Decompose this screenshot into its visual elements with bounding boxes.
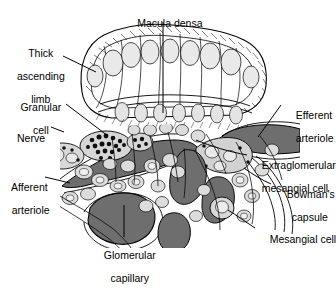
label-extraglomerular-mesangial-cell-line1: Extraglomerular bbox=[262, 159, 336, 171]
label-bowmans-capsule-line2: capsule bbox=[292, 211, 328, 223]
label-granular-cell-line1: Granular bbox=[20, 101, 61, 113]
label-glomerular-capillary: Glomerular capillary bbox=[76, 238, 172, 288]
label-macula-densa-text: Macula densa bbox=[137, 17, 202, 29]
label-efferent-arteriole-line2: arteriole bbox=[296, 132, 334, 144]
leader-afferent-arteriole bbox=[45, 177, 70, 183]
label-bowmans-capsule-line1: Bowman's bbox=[287, 188, 335, 200]
label-efferent-arteriole: Efferent arteriole bbox=[284, 98, 335, 156]
label-afferent-arteriole-line2: arteriole bbox=[12, 204, 50, 216]
mesangial-cell-shape bbox=[210, 197, 234, 219]
label-afferent-arteriole: Afferent arteriole bbox=[0, 170, 46, 228]
label-afferent-arteriole-line1: Afferent bbox=[11, 181, 48, 193]
label-macula-densa: Macula densa bbox=[118, 6, 210, 41]
label-nerve-text: Nerve bbox=[17, 132, 45, 144]
label-mesangial-cell: Mesangial cell bbox=[258, 222, 335, 257]
label-thick-ascending-limb-line1: Thick bbox=[28, 47, 53, 59]
label-mesangial-cell-text: Mesangial cell bbox=[270, 233, 336, 245]
label-thick-ascending-limb-line2: ascending bbox=[17, 70, 65, 82]
label-glomerular-capillary-line2: capillary bbox=[111, 272, 150, 284]
label-glomerular-capillary-line1: Glomerular bbox=[104, 249, 156, 261]
label-efferent-arteriole-line1: Efferent bbox=[296, 109, 333, 121]
label-nerve: Nerve bbox=[0, 121, 45, 156]
